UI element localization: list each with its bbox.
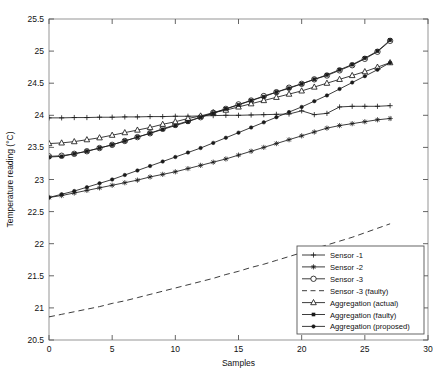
marker-dot bbox=[85, 185, 89, 189]
marker-circle bbox=[311, 276, 316, 281]
chart-canvas: 05101520253020.52121.52222.52323.52424.5… bbox=[0, 0, 443, 379]
marker-star bbox=[299, 133, 304, 138]
marker-dot bbox=[249, 126, 253, 130]
marker-dot bbox=[224, 136, 228, 140]
marker-plus bbox=[249, 112, 254, 117]
marker-square bbox=[48, 156, 51, 159]
y-tick-label: 23 bbox=[35, 175, 45, 185]
marker-plus bbox=[97, 115, 102, 120]
x-tick-label: 5 bbox=[110, 344, 115, 354]
legend-label: Sensor -1 bbox=[330, 251, 363, 260]
marker-square bbox=[237, 104, 240, 107]
marker-square bbox=[224, 107, 227, 110]
marker-dot bbox=[338, 87, 342, 91]
y-tick-label: 23.5 bbox=[27, 142, 44, 152]
legend-label: Aggregation (proposed) bbox=[330, 322, 410, 331]
marker-square bbox=[288, 87, 291, 90]
marker-dot bbox=[47, 196, 51, 200]
series-sensor-2 bbox=[46, 116, 392, 200]
marker-dot bbox=[60, 193, 64, 197]
marker-star bbox=[110, 183, 115, 188]
marker-square bbox=[186, 120, 189, 123]
marker-plus bbox=[236, 113, 241, 118]
marker-dot bbox=[363, 74, 367, 78]
marker-star bbox=[249, 149, 254, 154]
x-tick-label: 20 bbox=[297, 344, 307, 354]
marker-square bbox=[136, 136, 139, 139]
marker-dot bbox=[312, 325, 316, 329]
marker-star bbox=[236, 153, 241, 158]
marker-plus bbox=[59, 115, 64, 120]
marker-plus bbox=[337, 104, 342, 109]
marker-dot bbox=[300, 105, 304, 109]
marker-square bbox=[250, 99, 253, 102]
x-tick-label: 30 bbox=[423, 344, 433, 354]
marker-square bbox=[376, 50, 379, 53]
marker-dot bbox=[174, 155, 178, 159]
marker-square bbox=[85, 150, 88, 153]
marker-star bbox=[286, 137, 291, 142]
marker-star bbox=[135, 178, 140, 183]
marker-plus bbox=[299, 108, 304, 113]
marker-square bbox=[312, 313, 315, 316]
y-tick-label: 22 bbox=[35, 239, 45, 249]
marker-square bbox=[98, 147, 101, 150]
legend-label: Sensor -3 bbox=[330, 275, 363, 284]
marker-star bbox=[198, 163, 203, 168]
marker-square bbox=[123, 139, 126, 142]
marker-star bbox=[97, 185, 102, 190]
marker-star bbox=[388, 116, 393, 121]
series-line bbox=[49, 63, 390, 198]
marker-star bbox=[223, 156, 228, 161]
marker-dot bbox=[161, 160, 165, 164]
marker-plus bbox=[223, 113, 228, 118]
marker-star bbox=[375, 117, 380, 122]
marker-plus bbox=[362, 104, 367, 109]
x-tick-label: 25 bbox=[360, 344, 370, 354]
marker-square bbox=[300, 82, 303, 85]
marker-dot bbox=[313, 99, 317, 103]
marker-dot bbox=[325, 94, 329, 98]
marker-dot bbox=[73, 189, 77, 193]
marker-plus bbox=[312, 112, 317, 117]
marker-star bbox=[337, 123, 342, 128]
marker-plus bbox=[350, 104, 355, 109]
marker-square bbox=[174, 124, 177, 127]
marker-square bbox=[389, 39, 392, 42]
marker-dot bbox=[275, 115, 279, 119]
marker-star bbox=[122, 180, 127, 185]
legend-label: Sensor -2 bbox=[330, 263, 363, 272]
marker-plus bbox=[135, 114, 140, 119]
marker-plus bbox=[261, 112, 266, 117]
x-tick-label: 0 bbox=[47, 344, 52, 354]
marker-square bbox=[161, 128, 164, 131]
marker-square bbox=[149, 132, 152, 135]
marker-dot bbox=[199, 146, 203, 150]
y-tick-label: 25.5 bbox=[27, 14, 44, 24]
marker-square bbox=[275, 91, 278, 94]
x-tick-label: 10 bbox=[171, 344, 181, 354]
marker-dot bbox=[287, 110, 291, 114]
legend-label: Aggregation (faulty) bbox=[330, 311, 397, 320]
y-tick-label: 20.5 bbox=[27, 335, 44, 345]
marker-star bbox=[211, 160, 216, 165]
legend: Sensor -1Sensor -2Sensor -3Sensor -3 (fa… bbox=[297, 246, 424, 334]
marker-plus bbox=[324, 111, 329, 116]
series-line bbox=[49, 119, 390, 198]
figure-container: 05101520253020.52121.52222.52323.52424.5… bbox=[0, 0, 443, 379]
legend-label: Aggregation (actual) bbox=[330, 299, 399, 308]
marker-square bbox=[351, 63, 354, 66]
marker-plus bbox=[160, 114, 165, 119]
marker-square bbox=[313, 78, 316, 81]
marker-dot bbox=[388, 61, 392, 65]
marker-star bbox=[160, 172, 165, 177]
marker-plus bbox=[375, 104, 380, 109]
marker-square bbox=[212, 112, 215, 115]
marker-plus bbox=[147, 114, 152, 119]
y-tick-label: 24.5 bbox=[27, 78, 44, 88]
marker-square bbox=[73, 152, 76, 155]
y-tick-label: 25 bbox=[35, 46, 45, 56]
marker-square bbox=[111, 143, 114, 146]
series-line bbox=[49, 63, 390, 144]
marker-square bbox=[363, 57, 366, 60]
